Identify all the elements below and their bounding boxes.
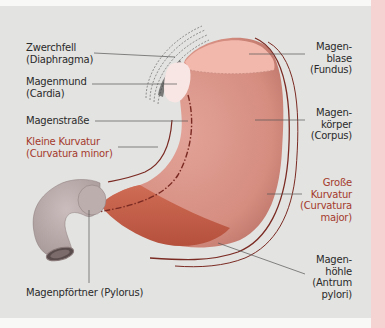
label-diaphragm: Zwerchfell (Diaphragma) [26,42,93,65]
label-fundus: Magen- blase (Fundus) [310,41,352,76]
label-corpus: Magen- körper (Corpus) [311,107,352,142]
label-pylorus: Magenpförtner (Pylorus) [26,287,143,299]
label-gastric-canal: Magenstraße [26,115,89,127]
label-greater-curvature: Große Kurvatur (Curvatura major) [300,177,352,223]
pylorus [78,185,106,215]
label-antrum: Magen- höhle (Antrum pylori) [312,254,352,300]
label-lesser-curvature: Kleine Kurvatur (Curvatura minor) [26,136,113,159]
label-cardia: Magenmund (Cardia) [26,76,87,99]
